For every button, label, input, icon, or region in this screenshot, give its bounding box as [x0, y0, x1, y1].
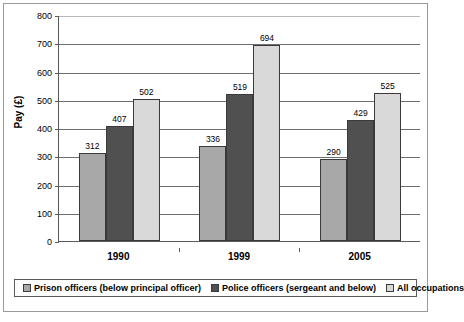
bar-slot: 694 — [253, 15, 280, 241]
legend-entry[interactable]: Police officers (sergeant and below) — [211, 283, 376, 293]
x-axis-tick-label: 2005 — [349, 251, 371, 262]
y-axis-tick-mark — [55, 129, 59, 130]
y-axis-tick-label: 500 — [37, 96, 52, 105]
bar[interactable] — [253, 45, 280, 241]
bar[interactable] — [79, 153, 106, 241]
legend-swatch-icon — [386, 284, 394, 292]
bar-value-label: 312 — [85, 142, 99, 151]
bars-layer: 312407502336519694290429525 — [59, 16, 420, 241]
legend-label: Police officers (sergeant and below) — [222, 283, 376, 293]
y-axis-tick-label: 300 — [37, 153, 52, 162]
bar[interactable] — [320, 159, 347, 241]
bar-group: 336519694 — [180, 16, 301, 241]
y-axis-tick-mark — [55, 44, 59, 45]
y-axis-title: Pay (£) — [13, 115, 24, 129]
x-axis-tick-label: 1990 — [107, 251, 129, 262]
plot-area: 312407502336519694290429525 — [58, 16, 420, 242]
y-axis-tick-labels: 8007006005004003002001000 — [26, 16, 52, 242]
plot-region: Pay (£) 8007006005004003002001000 312407… — [14, 16, 420, 264]
y-axis-tick-mark — [55, 16, 59, 17]
bar[interactable] — [133, 99, 160, 241]
bar-value-label: 429 — [354, 109, 368, 118]
bar-value-label: 336 — [206, 135, 220, 144]
y-axis-tick-label: 700 — [37, 40, 52, 49]
bar-slot: 502 — [133, 15, 160, 241]
bar-group: 290429525 — [300, 16, 421, 241]
legend-swatch-icon — [23, 284, 31, 292]
legend-entry[interactable]: Prison officers (below principal officer… — [23, 283, 201, 293]
bar[interactable] — [199, 146, 226, 241]
bar-slot: 429 — [347, 15, 374, 241]
y-axis-tick-mark — [55, 186, 59, 187]
legend-swatch-icon — [211, 284, 219, 292]
y-axis-tick-mark — [55, 242, 59, 243]
legend-label: All occupations — [397, 283, 464, 293]
x-axis-tick-mark — [299, 248, 300, 252]
legend-label: Prison officers (below principal officer… — [34, 283, 201, 293]
bar-slot: 519 — [226, 15, 253, 241]
chart-frame: Pay (£) 8007006005004003002001000 312407… — [3, 3, 428, 312]
bar[interactable] — [226, 94, 253, 241]
bar-slot: 407 — [106, 15, 133, 241]
y-axis-tick-mark — [55, 101, 59, 102]
bar-slot: 525 — [374, 15, 401, 241]
y-axis-tick-mark — [55, 157, 59, 158]
y-axis-tick-label: 800 — [37, 12, 52, 21]
bar-value-label: 407 — [112, 115, 126, 124]
x-axis-tick-mark — [179, 248, 180, 252]
bar[interactable] — [347, 120, 374, 241]
chart-legend: Prison officers (below principal officer… — [14, 279, 417, 297]
bar-slot: 336 — [199, 15, 226, 241]
x-axis-tick-label: 1999 — [228, 251, 250, 262]
y-axis-tick-mark — [55, 73, 59, 74]
bar-value-label: 694 — [260, 34, 274, 43]
y-axis-tick-label: 200 — [37, 181, 52, 190]
bar-value-label: 519 — [233, 83, 247, 92]
bar-value-label: 502 — [139, 88, 153, 97]
y-axis-tick-label: 0 — [47, 238, 52, 247]
legend-entry[interactable]: All occupations — [386, 283, 464, 293]
bar-value-label: 290 — [327, 148, 341, 157]
bar[interactable] — [374, 93, 401, 241]
y-axis-tick-label: 400 — [37, 125, 52, 134]
bar-slot: 312 — [79, 15, 106, 241]
x-axis-tick-labels: 199019992005 — [58, 248, 420, 264]
bar-slot: 290 — [320, 15, 347, 241]
y-axis-tick-mark — [55, 214, 59, 215]
bar-value-label: 525 — [381, 82, 395, 91]
y-axis-tick-label: 600 — [37, 68, 52, 77]
bar-group: 312407502 — [59, 16, 180, 241]
y-axis-tick-label: 100 — [37, 209, 52, 218]
bar[interactable] — [106, 126, 133, 241]
